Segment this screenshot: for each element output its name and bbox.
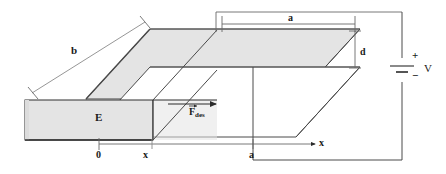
label-voltage: V (424, 63, 432, 74)
axis-label-x: x (319, 138, 324, 148)
label-E-field: E (95, 112, 102, 123)
label-d: d (360, 47, 366, 57)
force-subscript: des (195, 111, 205, 119)
label-b: b (71, 45, 77, 56)
battery-symbol (390, 66, 414, 72)
terminal-positive: + (412, 50, 418, 61)
figure-canvas: b a d E 0 x a x V + − Fdes (0, 0, 446, 174)
terminal-negative: − (412, 70, 418, 81)
axis-tick-origin: 0 (96, 150, 101, 160)
slab-left-cap (25, 100, 29, 140)
axis-tick-x: x (143, 150, 148, 160)
label-force-des: Fdes (189, 107, 205, 119)
label-a-top: a (288, 13, 293, 23)
capacitor-diagram-svg (0, 0, 446, 174)
axis-tick-a: a (249, 150, 254, 160)
